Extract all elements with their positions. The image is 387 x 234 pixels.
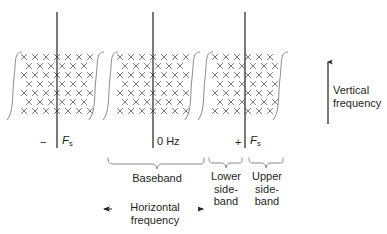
label-negative-fs-symbol: Fs bbox=[62, 134, 73, 150]
upper-sideband-brace bbox=[249, 158, 283, 168]
label-positive-fs-subscript: s bbox=[257, 139, 261, 148]
spectrum-diagram: − Fs 0 Hz + Fs Baseband Lower side- band… bbox=[0, 0, 387, 234]
label-upper-sideband-line-3: band bbox=[243, 195, 291, 208]
block-edge-curve-left bbox=[198, 52, 213, 120]
block-edge-curve-left bbox=[7, 52, 22, 120]
label-negative-fs-sign: − bbox=[40, 136, 46, 148]
label-upper-sideband-line-1: Upper bbox=[243, 170, 291, 183]
label-negative-fs-f: F bbox=[62, 134, 69, 146]
block-negative-fs bbox=[7, 12, 104, 148]
block-baseband bbox=[103, 12, 200, 148]
label-positive-fs-f: F bbox=[250, 134, 257, 146]
block-edge-curve-right bbox=[273, 52, 288, 120]
label-upper-sideband-line-2: side- bbox=[243, 183, 291, 196]
label-vertical-frequency-line-2: frequency bbox=[333, 97, 387, 110]
label-vertical-frequency-line-1: Vertical bbox=[333, 84, 387, 97]
label-upper-sideband: Upper side- band bbox=[243, 170, 291, 208]
label-horizontal-frequency-line-1: Horizontal bbox=[113, 201, 197, 214]
label-positive-fs-symbol: Fs bbox=[250, 134, 261, 150]
diagram-vector-layer bbox=[0, 0, 387, 234]
label-negative-fs-subscript: s bbox=[69, 139, 73, 148]
label-positive-fs-sign: + bbox=[235, 136, 241, 148]
label-zero-hz: 0 Hz bbox=[157, 135, 180, 147]
baseband-brace bbox=[108, 158, 204, 169]
label-baseband: Baseband bbox=[117, 172, 197, 185]
label-vertical-frequency: Vertical frequency bbox=[333, 84, 387, 109]
lower-sideband-brace bbox=[209, 158, 242, 168]
label-horizontal-frequency-line-2: frequency bbox=[113, 214, 197, 227]
label-horizontal-frequency: Horizontal frequency bbox=[112, 201, 198, 226]
block-positive-fs bbox=[198, 12, 288, 148]
block-edge-curve-left bbox=[103, 52, 118, 120]
